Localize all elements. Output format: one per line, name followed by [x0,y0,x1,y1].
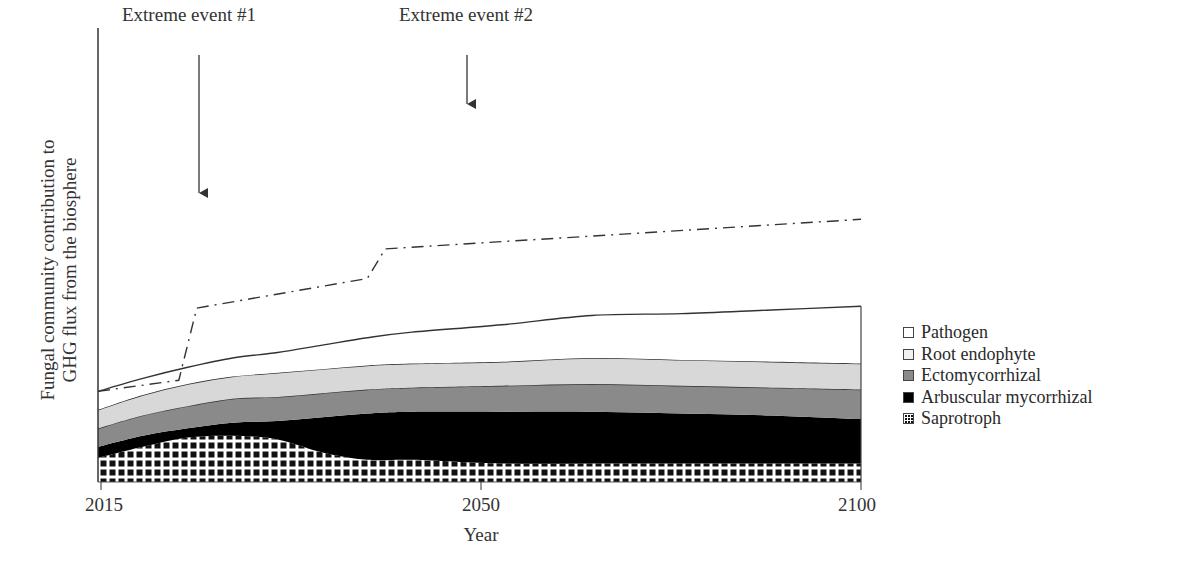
x-tick-label-2015: 2015 [85,494,123,515]
legend-swatch-pathogen [903,327,914,338]
legend: Pathogen Root endophyte Ectomycorrhizal … [903,322,1092,430]
legend-swatch-ectomycorrhizal [903,370,914,381]
stacked-area-chart: 2015 2050 2100 Year Fungal community con… [0,0,1177,568]
legend-swatch-arbuscular-mycorrhizal [903,392,914,403]
legend-swatch-root-endophyte [903,349,914,360]
legend-label: Root endophyte [921,344,1036,365]
legend-label: Pathogen [921,322,988,343]
legend-item-saprotroph: Saprotroph [903,408,1092,430]
legend-item-root-endophyte: Root endophyte [903,344,1092,366]
legend-item-pathogen: Pathogen [903,322,1092,344]
x-tick-label-2050: 2050 [462,494,500,515]
x-axis-title: Year [463,524,499,545]
x-tick-label-2100: 2100 [838,494,876,515]
legend-item-arbuscular-mycorrhizal: Arbuscular mycorrhizal [903,387,1092,409]
y-axis-title-line-2: GHG flux from the biosphere [59,158,80,383]
legend-swatch-saprotroph [903,413,914,424]
legend-label: Arbuscular mycorrhizal [921,387,1092,408]
legend-item-ectomycorrhizal: Ectomycorrhizal [903,365,1092,387]
plot-areas [98,306,861,482]
legend-label: Ectomycorrhizal [921,365,1041,386]
annotation-extreme-event-1: Extreme event #1 [122,4,256,25]
annotation-extreme-event-2: Extreme event #2 [399,4,533,25]
legend-label: Saprotroph [921,408,1001,429]
y-axis-title-line-1: Fungal community contribution to [37,139,58,400]
